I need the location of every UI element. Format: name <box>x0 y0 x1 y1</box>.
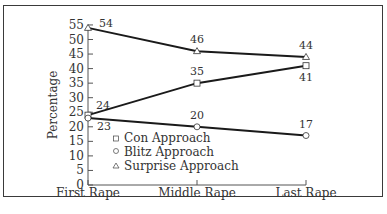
x-category-label: Last Rape <box>275 186 336 200</box>
line-chart: 0510152025303540455055First RapeMiddle R… <box>0 0 387 214</box>
y-tick-label: 50 <box>69 33 84 47</box>
data-point-label: 20 <box>190 109 204 122</box>
data-point-label: 35 <box>190 65 204 78</box>
data-point-label: 44 <box>299 39 313 52</box>
y-tick-label: 5 <box>76 163 84 177</box>
x-category-label: First Rape <box>56 186 120 200</box>
y-tick-label: 15 <box>69 134 84 148</box>
data-point-label: 54 <box>99 17 113 30</box>
square-marker-icon <box>194 80 200 86</box>
circle-marker-icon <box>303 133 309 139</box>
data-point-label: 46 <box>190 33 204 46</box>
y-axis-title: Percentage <box>46 71 60 140</box>
y-tick-label: 55 <box>69 18 84 32</box>
y-tick-label: 45 <box>69 47 84 61</box>
legend-label: Blitz Approach <box>124 145 214 159</box>
data-point-label: 23 <box>97 120 111 133</box>
data-point-label: 24 <box>96 99 110 112</box>
y-tick-label: 20 <box>69 120 84 134</box>
y-tick-label: 40 <box>69 62 84 76</box>
y-tick-label: 10 <box>69 149 84 163</box>
legend-triangle-icon <box>113 163 119 168</box>
legend-label: Surprise Approach <box>124 159 239 173</box>
y-tick-label: 25 <box>69 105 84 119</box>
y-tick-label: 30 <box>69 91 84 105</box>
y-tick-label: 35 <box>69 76 84 90</box>
legend-circle-icon <box>114 149 119 154</box>
legend-square-icon <box>114 136 119 141</box>
circle-marker-icon <box>85 115 91 121</box>
circle-marker-icon <box>194 124 200 130</box>
data-point-label: 17 <box>299 118 313 131</box>
square-marker-icon <box>303 63 309 69</box>
data-point-label: 41 <box>299 71 313 84</box>
x-category-label: Middle Rape <box>158 186 236 200</box>
legend-label: Con Approach <box>124 131 211 145</box>
